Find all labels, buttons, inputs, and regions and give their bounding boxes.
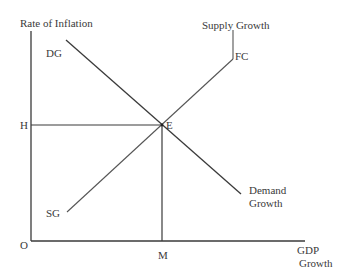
y-axis-label: Rate of Inflation [20, 17, 93, 29]
demand-start-label: DG [46, 47, 62, 59]
gdp-level-label: M [158, 249, 168, 261]
x-axis-label-line1: GDP [297, 244, 319, 256]
origin-label: O [20, 239, 28, 251]
demand-growth-curve [66, 40, 241, 194]
supply-growth-curve [67, 59, 233, 212]
x-axis-label-line2: Growth [299, 257, 333, 269]
equilibrium-point [161, 124, 164, 127]
inflation-level-label: H [20, 119, 28, 131]
supply-end-label: Supply Growth [202, 19, 270, 31]
full-capacity-label: FC [235, 50, 248, 62]
supply-start-label: SG [46, 207, 60, 219]
demand-end-label-line2: Growth [249, 197, 283, 209]
equilibrium-label: E [166, 119, 173, 131]
demand-end-label-line1: Demand [249, 184, 286, 196]
diagram-canvas [0, 0, 350, 277]
